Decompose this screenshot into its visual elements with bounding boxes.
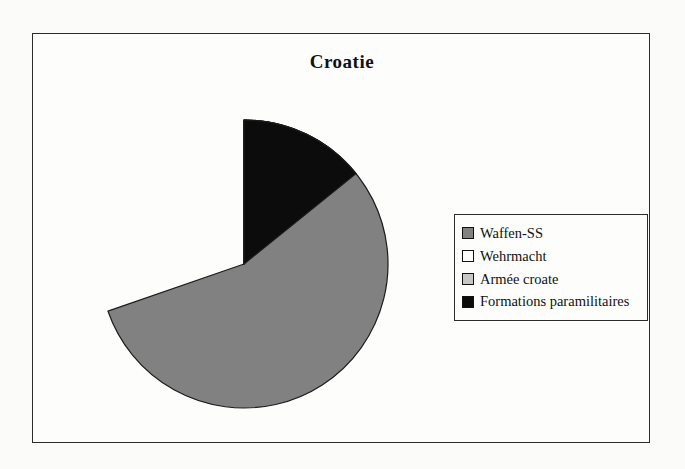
scanned-chart-page: Croatie Waffen-SS Wehrmacht Armée croate… <box>0 0 685 469</box>
legend-label: Armée croate <box>480 272 559 287</box>
legend-label: Wehrmacht <box>480 249 546 264</box>
legend-swatch-armee-croate <box>462 273 474 285</box>
legend-item-formations-paramilitaires: Formations paramilitaires <box>462 294 645 309</box>
legend-swatch-waffen-ss <box>462 227 474 239</box>
legend-item-waffen-ss: Waffen-SS <box>462 226 645 241</box>
legend-label: Waffen-SS <box>480 226 543 241</box>
legend: Waffen-SS Wehrmacht Armée croate Formati… <box>454 214 648 321</box>
legend-swatch-formations-paramilitaires <box>462 296 474 308</box>
legend-swatch-wehrmacht <box>462 250 474 262</box>
legend-label: Formations paramilitaires <box>480 294 629 309</box>
legend-item-wehrmacht: Wehrmacht <box>462 249 645 264</box>
legend-item-armee-croate: Armée croate <box>462 272 645 287</box>
